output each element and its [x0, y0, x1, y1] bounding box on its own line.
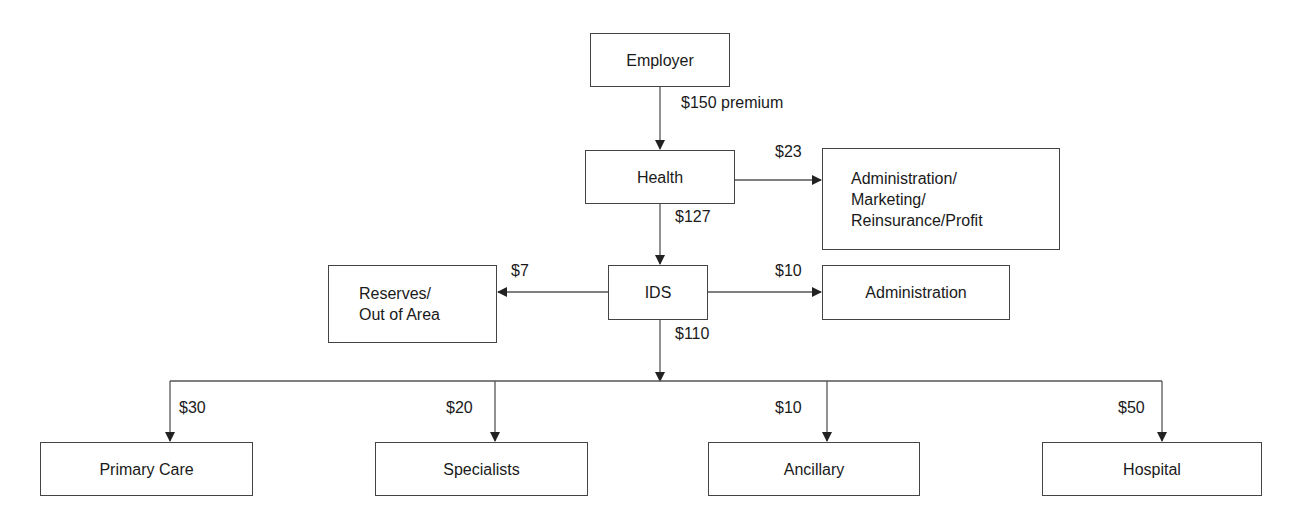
node-specialists: Specialists	[375, 442, 588, 496]
edge-label-specialists: $20	[446, 399, 473, 417]
node-ids-administration: Administration	[822, 265, 1010, 320]
node-ancillary-label: Ancillary	[784, 459, 844, 480]
node-health: Health	[585, 150, 735, 204]
node-employer: Employer	[590, 33, 730, 87]
node-hospital-label: Hospital	[1123, 459, 1181, 480]
node-primary-care: Primary Care	[40, 442, 253, 496]
node-ids: IDS	[608, 265, 708, 320]
reserves-line-2: Out of Area	[359, 304, 440, 325]
node-ids-administration-label: Administration	[865, 282, 966, 303]
admin-marketing-line-1: Administration/	[851, 168, 983, 189]
node-ancillary: Ancillary	[708, 442, 920, 496]
edge-label-health-admin: $23	[775, 143, 802, 161]
edge-label-hospital: $50	[1118, 399, 1145, 417]
edge-label-ids-providers: $110	[675, 325, 709, 343]
edge-label-health-ids: $127	[675, 208, 711, 226]
reserves-line-1: Reserves/	[359, 283, 440, 304]
node-health-label: Health	[637, 167, 683, 188]
edge-label-ids-admin: $10	[775, 262, 802, 280]
edge-label-premium: $150 premium	[681, 94, 783, 112]
node-specialists-label: Specialists	[443, 459, 519, 480]
node-hospital: Hospital	[1042, 442, 1262, 496]
node-employer-label: Employer	[626, 50, 694, 71]
node-ids-label: IDS	[645, 282, 672, 303]
admin-marketing-line-3: Reinsurance/Profit	[851, 210, 983, 231]
node-primary-care-label: Primary Care	[99, 459, 193, 480]
admin-marketing-line-2: Marketing/	[851, 189, 983, 210]
edge-label-primary-care: $30	[179, 399, 206, 417]
node-admin-marketing: Administration/ Marketing/ Reinsurance/P…	[822, 148, 1060, 250]
edge-label-ancillary: $10	[775, 399, 802, 417]
node-reserves: Reserves/ Out of Area	[328, 265, 497, 343]
edge-label-ids-reserves: $7	[511, 262, 529, 280]
